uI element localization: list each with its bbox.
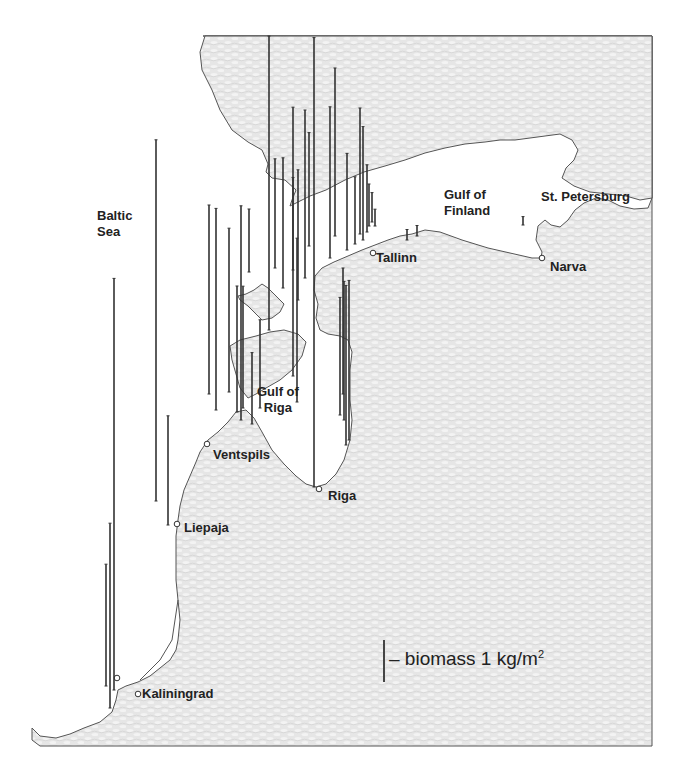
- label-gulf-of-finland: Gulf of Finland: [444, 187, 490, 219]
- city-marker-riga: [316, 486, 322, 492]
- baltic-map: [0, 0, 685, 759]
- label-gor-line2: Riga: [257, 400, 299, 416]
- legend-label: – biomass 1 kg/m2: [389, 648, 544, 670]
- label-narva: Narva: [550, 259, 586, 275]
- city-marker-klaipeda: [114, 675, 120, 681]
- city-marker-narva: [539, 255, 545, 261]
- city-marker-kaliningrad: [135, 691, 141, 697]
- island-hiiumaa: [238, 284, 284, 320]
- label-ventspils: Ventspils: [213, 447, 270, 463]
- city-marker-ventspils: [204, 441, 210, 447]
- label-st-petersburg: St. Petersburg: [541, 189, 630, 205]
- legend-text: – biomass 1 kg/m: [389, 648, 538, 669]
- legend-superscript: 2: [538, 648, 544, 660]
- city-marker-liepaja: [174, 521, 180, 527]
- land-finland: [200, 36, 652, 206]
- city-marker-tallinn: [370, 250, 376, 256]
- label-tallinn: Tallinn: [376, 250, 417, 266]
- label-gof-line1: Gulf of: [444, 187, 490, 203]
- label-liepaja: Liepaja: [184, 520, 229, 536]
- label-baltic-sea: Baltic Sea: [97, 208, 132, 240]
- label-gof-line2: Finland: [444, 203, 490, 219]
- label-baltic-line2: Sea: [97, 224, 132, 240]
- label-kaliningrad: Kaliningrad: [142, 686, 214, 702]
- label-baltic-line1: Baltic: [97, 208, 132, 224]
- label-riga: Riga: [328, 488, 356, 504]
- label-gor-line1: Gulf of: [257, 384, 299, 400]
- label-gulf-of-riga: Gulf of Riga: [257, 384, 299, 416]
